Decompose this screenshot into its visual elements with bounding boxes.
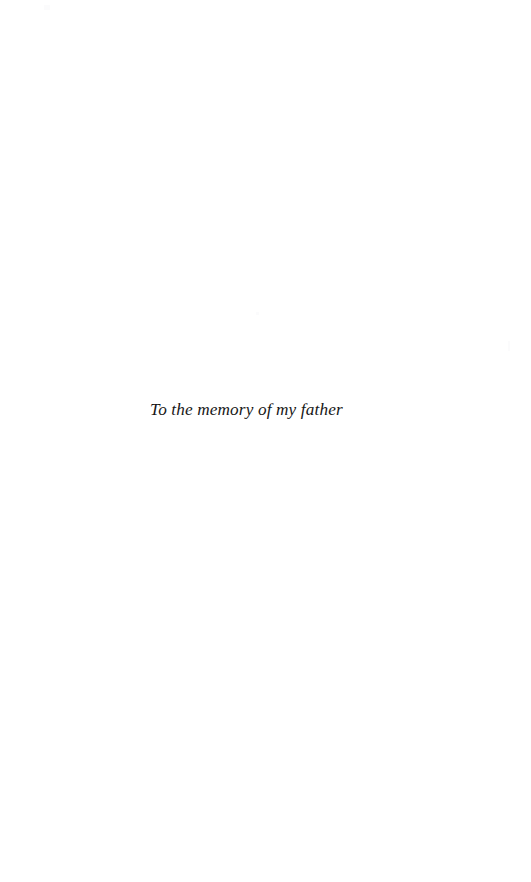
scan-artifact-speckle [508, 341, 510, 351]
scan-artifact-speckle [44, 5, 50, 10]
dedication-text: To the memory of my father [150, 399, 343, 421]
scan-artifact-speckle [256, 312, 259, 315]
dedication-page: To the memory of my father [0, 0, 531, 882]
dedication-block: To the memory of my father [0, 399, 531, 429]
